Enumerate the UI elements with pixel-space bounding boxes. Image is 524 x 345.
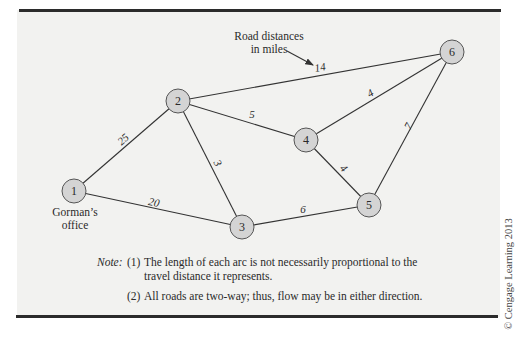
edge-label-2-4: 5	[249, 108, 255, 120]
node-4: 4	[294, 128, 318, 152]
edge-label-5-6: 7	[401, 120, 414, 131]
annotation-line-2: in miles	[226, 43, 312, 56]
node-2-label: 2	[175, 94, 181, 108]
node-6-label: 6	[449, 45, 455, 59]
node-3-label: 3	[239, 220, 245, 234]
node-6: 6	[440, 40, 464, 64]
node-1-label: 1	[71, 184, 77, 198]
edge-label-2-6: 14	[314, 60, 327, 74]
edge-labels: 25 20 3 5 14 6 4 4 7	[115, 60, 415, 215]
node-1: 1	[62, 179, 86, 203]
edge-label-1-2: 25	[115, 131, 132, 148]
note-item-2: (2) All roads are two-way; thus, flow ma…	[97, 289, 422, 303]
edge-label-4-6: 4	[365, 86, 376, 99]
road-distances-annotation: Road distances in miles	[226, 30, 312, 56]
edge-2-3	[178, 101, 242, 227]
caption-line-1: Gorman’s	[46, 206, 104, 219]
gormans-office-caption: Gorman’s office	[46, 206, 104, 232]
node-4-label: 4	[303, 133, 309, 147]
note-item-2-text: All roads are two-way; thus, flow may be…	[144, 289, 422, 303]
note-item-2-number: (2)	[127, 289, 144, 303]
edge-label-4-5: 4	[338, 162, 351, 175]
note-item-1-number: (1)	[127, 255, 144, 269]
node-3: 3	[230, 215, 254, 239]
edge-4-5	[306, 140, 369, 205]
node-5-label: 5	[366, 198, 372, 212]
edge-label-2-3: 3	[211, 157, 225, 169]
edge-label-1-3: 20	[147, 195, 161, 209]
note-item-1: Note: (1) The length of each arc is not …	[97, 255, 422, 269]
note-item-1-line-2: travel distance it represents.	[144, 269, 272, 283]
caption-line-2: office	[46, 219, 104, 232]
edge-label-3-5: 6	[300, 203, 306, 215]
note-item-1-line-1: The length of each arc is not necessaril…	[144, 255, 417, 269]
node-2: 2	[166, 89, 190, 113]
note-label: Note:	[97, 255, 127, 269]
node-5: 5	[357, 193, 381, 217]
copyright-notice: © Cengage Learning 2013	[503, 218, 514, 330]
note-item-1-continuation: travel distance it represents.	[97, 269, 422, 283]
edge-1-2	[74, 101, 178, 191]
edge-2-4	[178, 101, 306, 140]
annotation-line-1: Road distances	[226, 30, 312, 43]
note-block: Note: (1) The length of each arc is not …	[97, 255, 422, 303]
